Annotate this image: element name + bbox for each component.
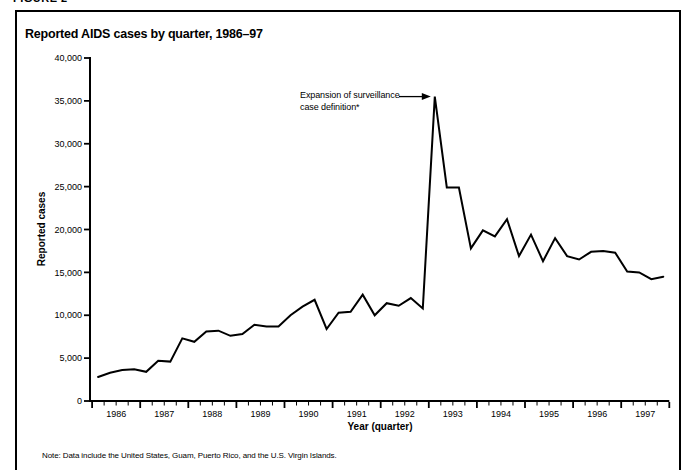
year-label: 1993	[443, 409, 463, 419]
surveillance-annotation: Expansion of surveillance case definitio…	[300, 89, 400, 113]
year-label: 1995	[539, 409, 559, 419]
y-tick-label: 35,000	[54, 96, 82, 106]
year-label: 1987	[154, 409, 174, 419]
year-label: 1996	[587, 409, 607, 419]
figure-footnote: Note: Data include the United States, Gu…	[42, 451, 337, 460]
x-axis-title: Year (quarter)	[347, 421, 412, 432]
year-label: 1986	[106, 409, 126, 419]
y-tick-label: 15,000	[54, 268, 82, 278]
annotation-line-1: Expansion of surveillance	[300, 89, 400, 101]
year-label: 1990	[299, 409, 319, 419]
year-label: 1991	[347, 409, 367, 419]
y-tick-label: 20,000	[54, 225, 82, 235]
y-tick-label: 0	[77, 396, 82, 406]
year-label: 1988	[202, 409, 222, 419]
y-tick-label: 40,000	[54, 53, 82, 63]
y-tick-label: 10,000	[54, 310, 82, 320]
year-label: 1994	[491, 409, 511, 419]
y-tick-label: 5,000	[59, 353, 82, 363]
y-tick-label: 25,000	[54, 182, 82, 192]
y-tick-label: 30,000	[54, 139, 82, 149]
annotation-arrowhead	[422, 93, 431, 100]
reported-cases-line	[98, 97, 663, 377]
annotation-line-2: case definition*	[300, 101, 400, 113]
year-label: 1997	[635, 409, 655, 419]
year-label: 1989	[250, 409, 270, 419]
year-label: 1992	[395, 409, 415, 419]
